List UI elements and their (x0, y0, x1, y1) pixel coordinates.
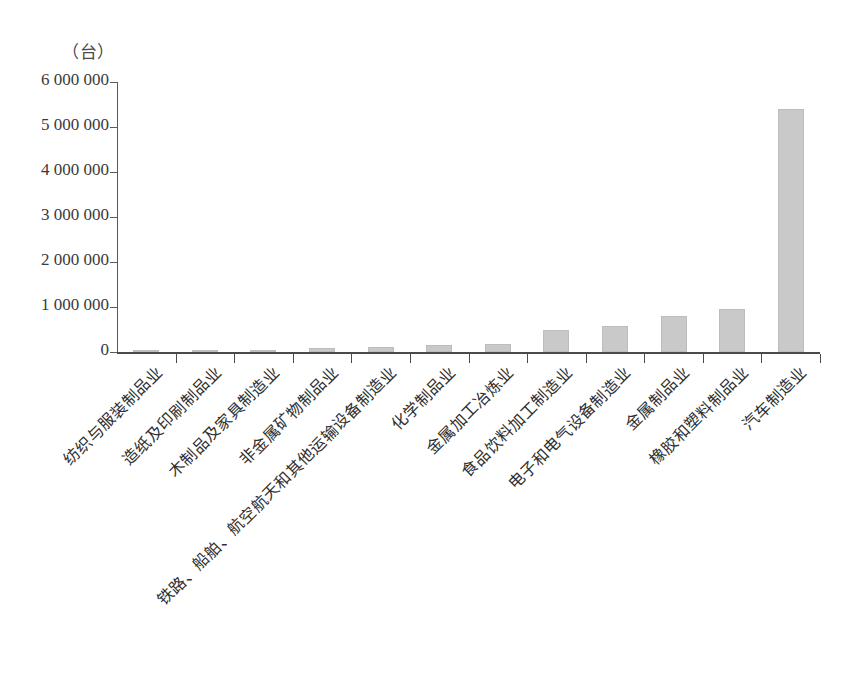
x-axis-label: 食品饮料加工制造业 (459, 364, 575, 480)
bar[interactable] (602, 326, 628, 352)
y-tick-mark (110, 127, 117, 128)
y-tick-label: 1 000 000 (41, 296, 109, 313)
x-tick-mark (176, 354, 177, 363)
bar[interactable] (719, 309, 745, 352)
y-tick-mark (110, 217, 117, 218)
y-tick-mark (110, 352, 117, 353)
y-tick-mark (110, 262, 117, 263)
x-axis-label: 电子和电气设备制造业 (506, 364, 634, 492)
x-tick-mark (644, 354, 645, 363)
bar[interactable] (368, 347, 394, 352)
y-tick-mark (110, 82, 117, 83)
bar[interactable] (661, 316, 687, 352)
x-axis-label: 木制品及家具制造业 (166, 364, 282, 480)
y-tick-mark (110, 307, 117, 308)
bar[interactable] (309, 348, 335, 352)
bar[interactable] (426, 345, 452, 352)
bar[interactable] (485, 344, 511, 352)
bar[interactable] (778, 109, 804, 352)
x-tick-mark (351, 354, 352, 363)
bar-chart-figure: （台） 01 000 0002 000 0003 000 0004 000 00… (0, 0, 852, 685)
x-tick-mark (293, 354, 294, 363)
x-tick-mark (527, 354, 528, 363)
y-axis-line (117, 82, 118, 353)
x-tick-mark (586, 354, 587, 363)
bar[interactable] (133, 350, 159, 352)
x-tick-mark (820, 354, 821, 363)
y-tick-label: 3 000 000 (41, 206, 109, 223)
y-tick-label: 5 000 000 (41, 116, 109, 133)
x-axis-label: 纺织与服装制品业 (61, 364, 166, 469)
x-tick-mark (761, 354, 762, 363)
y-axis-unit-label: （台） (62, 38, 115, 63)
x-tick-mark (234, 354, 235, 363)
plot-area: 01 000 0002 000 0003 000 0004 000 0005 0… (117, 82, 820, 352)
x-tick-mark (410, 354, 411, 363)
bar[interactable] (250, 350, 276, 352)
y-tick-label: 0 (101, 341, 110, 358)
bar[interactable] (543, 330, 569, 352)
x-tick-mark (469, 354, 470, 363)
bar[interactable] (192, 350, 218, 352)
x-tick-mark (703, 354, 704, 363)
y-tick-mark (110, 172, 117, 173)
y-tick-label: 2 000 000 (41, 251, 109, 268)
y-tick-label: 4 000 000 (41, 161, 109, 178)
y-tick-label: 6 000 000 (41, 71, 109, 88)
